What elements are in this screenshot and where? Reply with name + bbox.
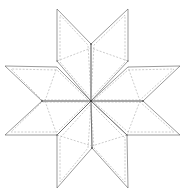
diamond-right-top: [91, 66, 180, 101]
diamond-top-right: [91, 9, 128, 101]
diamond-right-bottom: [91, 101, 180, 135]
diamond-bottom-left: [57, 101, 92, 188]
star-outline: [0, 0, 182, 192]
diamond-left-top: [5, 66, 91, 101]
star-diagram: [0, 0, 182, 192]
diamond-top-left: [57, 9, 91, 101]
